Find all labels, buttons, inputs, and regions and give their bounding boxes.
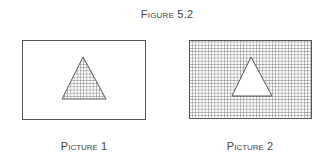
- picture-1-caption: Picture 1: [24, 140, 144, 152]
- picture-1: [23, 41, 146, 120]
- figure-diagram: [0, 0, 334, 158]
- picture-2: [190, 41, 312, 119]
- picture-2-caption: Picture 2: [190, 140, 310, 152]
